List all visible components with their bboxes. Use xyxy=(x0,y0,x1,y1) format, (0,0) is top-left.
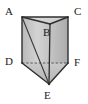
vertex-label-f: F xyxy=(74,57,80,68)
vertex-label-d: D xyxy=(5,56,13,67)
vertex-dot-E xyxy=(48,83,50,85)
vertex-dot-D xyxy=(21,62,23,64)
vertex-label-a: A xyxy=(5,6,13,17)
vertex-dot-F xyxy=(67,62,69,64)
vertex-dot-C xyxy=(67,16,69,18)
vertex-label-b: B xyxy=(43,27,50,38)
vertex-dot-B xyxy=(49,23,51,25)
vertex-label-e: E xyxy=(44,90,51,101)
geometry-figure-triangular-prism: A C B D F E xyxy=(0,0,88,104)
vertex-dot-A xyxy=(21,16,23,18)
vertex-label-c: C xyxy=(74,6,81,17)
